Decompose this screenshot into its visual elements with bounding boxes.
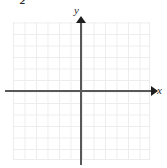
y-axis-label: y [74,4,79,16]
figure-number-label: 2 [20,0,26,6]
x-axis-label: x [157,84,162,96]
y-axis-line [80,19,82,165]
x-axis-line [5,90,153,92]
y-axis-arrow-icon [76,16,86,23]
coordinate-grid-figure: 2 x y [0,0,167,168]
